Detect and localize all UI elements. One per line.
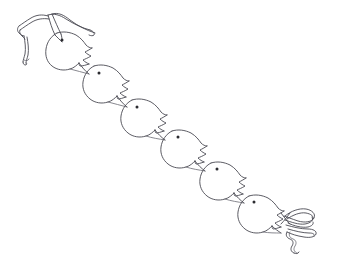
bird-2 (83, 65, 129, 107)
bird-4-eye (177, 136, 180, 139)
bird-2-eye (98, 72, 101, 75)
bird-5 (200, 162, 246, 203)
artwork-canvas: Chain of Birds A diagonal garland of six… (0, 0, 337, 266)
bird-4 (161, 130, 207, 171)
bird-6-eye (253, 201, 256, 204)
bird-6 (238, 195, 284, 233)
bottom-ribbon-bow (281, 209, 316, 254)
top-ribbon-streamer (18, 13, 96, 65)
bird-1 (46, 32, 92, 74)
bird-5-eye (216, 168, 219, 171)
line-drawing-svg (0, 0, 337, 266)
bird-3-eye (136, 106, 139, 109)
bird-1-eye (61, 39, 64, 42)
bird-3 (121, 99, 167, 140)
